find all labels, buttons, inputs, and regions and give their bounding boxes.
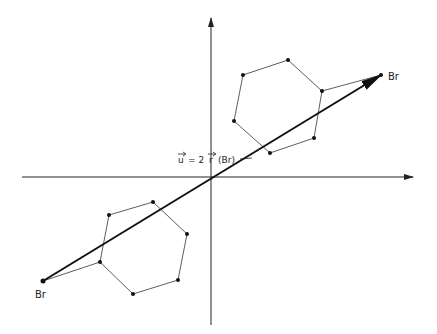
hexagon-lower (100, 202, 187, 294)
label-leader (240, 158, 252, 159)
diagram-canvas: Br Br u = 2 r (Br) (0, 0, 437, 334)
connector-upper (322, 75, 381, 91)
label-arg: (Br) (218, 155, 235, 165)
connector-lower (43, 262, 100, 281)
diagram-svg: Br Br u = 2 r (Br) (0, 0, 437, 334)
hexagon-upper (234, 60, 322, 153)
endpoint-label-lower: Br (35, 289, 47, 300)
label-eq: = 2 (188, 155, 204, 165)
label-u: u (178, 155, 184, 165)
label-r: r (209, 155, 213, 165)
endpoint-label-upper: Br (388, 71, 400, 82)
vector-equation-label: u = 2 r (Br) (178, 152, 252, 165)
vector-u (43, 75, 381, 281)
